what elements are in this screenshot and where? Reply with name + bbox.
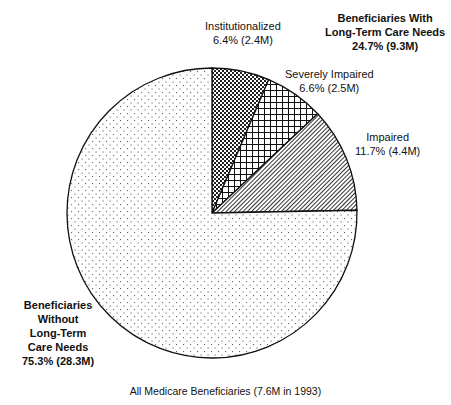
label-name: Impaired — [355, 130, 420, 144]
label-line: Beneficiaries With — [325, 11, 445, 25]
label-institutionalized: Institutionalized 6.4% (2.4M) — [205, 19, 281, 47]
label-value: 11.7% (4.4M) — [355, 144, 420, 158]
label-line: Beneficiaries — [22, 298, 94, 312]
label-line: Care Needs — [22, 340, 94, 354]
label-value: 24.7% (9.3M) — [325, 39, 445, 53]
label-name: Institutionalized — [205, 19, 281, 33]
label-without-ltc: Beneficiaries Without Long-Term Care Nee… — [22, 298, 94, 368]
label-impaired: Impaired 11.7% (4.4M) — [355, 130, 420, 158]
label-with-ltc: Beneficiaries With Long-Term Care Needs … — [325, 11, 445, 53]
label-line: Long-Term — [22, 326, 94, 340]
label-value: 75.3% (28.3M) — [22, 354, 94, 368]
label-severely-impaired: Severely Impaired 6.6% (2.5M) — [285, 67, 374, 95]
label-name: Severely Impaired — [285, 67, 374, 81]
label-line: Without — [22, 312, 94, 326]
label-value: 6.4% (2.4M) — [205, 33, 281, 47]
chart-caption: All Medicare Beneficiaries (7.6M in 1993… — [0, 385, 451, 397]
label-value: 6.6% (2.5M) — [285, 81, 374, 95]
label-line: Long-Term Care Needs — [325, 25, 445, 39]
